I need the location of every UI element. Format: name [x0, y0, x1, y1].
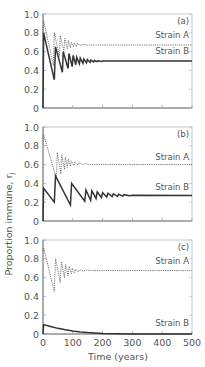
panel-a-panel-label: (a): [177, 16, 189, 26]
panel-c-panel-label: (c): [178, 242, 189, 252]
y-axis-title: Proportion immune, rj: [3, 172, 16, 275]
panel-a-label-strain-a: Strain A: [155, 30, 189, 40]
y-axis-title-text: Proportion immune, r: [3, 174, 14, 275]
panel-c-ytick-label: 0.4: [24, 291, 39, 302]
panel-c-ytick-label: 0.8: [24, 253, 39, 264]
panel-b-ytick-label: 0.8: [24, 140, 39, 151]
panel-b-panel-label: (b): [177, 129, 189, 139]
panel-c-xtick-label: 400: [153, 337, 171, 348]
panel-b-label-strain-b: Strain B: [155, 182, 189, 192]
panel-b-frame: [43, 127, 192, 221]
panel-a-ytick-label: 0: [33, 103, 39, 114]
panel-a-series-strain-b: [43, 33, 192, 108]
panel-c-series-strain-a: [43, 248, 192, 292]
panel-c-xtick-label: 0: [40, 337, 46, 348]
x-axis-title: Time (years): [87, 351, 148, 362]
panel-c-xtick-label: 500: [183, 337, 201, 348]
panel-a-label-strain-b: Strain B: [155, 46, 189, 56]
y-axis-title-subscript: j: [8, 172, 16, 175]
panel-a-ytick-label: 0.6: [24, 46, 39, 57]
panel-c-ytick-label: 0: [33, 329, 39, 340]
panel-a-ytick-label: 1.0: [24, 9, 39, 20]
panel-a-ytick-label: 0.2: [24, 84, 39, 95]
panel-c-ytick-label: 0.6: [24, 272, 39, 283]
panel-c-label-strain-b: Strain B: [155, 318, 189, 328]
panel-c-ytick-label: 0.2: [24, 310, 39, 321]
panel-c-xtick-label: 100: [64, 337, 82, 348]
panel-c-xtick-label: 200: [94, 337, 112, 348]
panel-b-ytick-label: 0.6: [24, 159, 39, 170]
panel-b-ytick-label: 0.2: [24, 197, 39, 208]
panel-b-ytick-label: 0.4: [24, 178, 39, 189]
panel-c-xtick-label: 300: [123, 337, 141, 348]
panel-a-ytick-label: 0.8: [24, 27, 39, 38]
panel-c-label-strain-a: Strain A: [155, 256, 189, 266]
panel-b-ytick-label: 0: [33, 216, 39, 227]
panel-a-ytick-label: 0.4: [24, 65, 39, 76]
panel-b-label-strain-a: Strain A: [155, 152, 189, 162]
panel-b-ytick-label: 1.0: [24, 122, 39, 133]
panel-c-ytick-label: 1.0: [24, 235, 39, 246]
chart-figure: Proportion immune, rj Time (years) 00.20…: [0, 0, 205, 367]
